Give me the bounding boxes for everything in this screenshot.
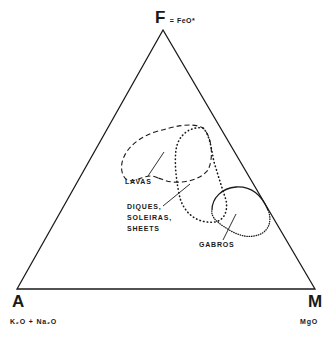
gabros-field-dotted-edge [212,210,270,236]
vertex-a-letter: A [12,292,24,312]
ternary-triangle [17,30,315,289]
dikes-label-line-3: SHEETS [127,223,172,234]
gabros-leader-line [223,214,236,240]
vertex-m-formula: MgO [300,318,318,325]
vertex-f-letter: F [155,8,165,27]
lavas-label: LAVAS [125,178,152,185]
vertex-f-formula: = FeO* [170,17,195,24]
vertex-m-letter: M [308,292,322,312]
gabros-label: GABROS [199,241,235,248]
afm-ternary-diagram [0,0,332,337]
gabros-field-solid-edge [212,187,268,210]
lavas-field-outline [122,125,212,182]
vertex-a-formula: K₂O + Na₂O [10,318,57,325]
dikes-field-outline [175,128,226,222]
lavas-leader-line [148,152,164,176]
vertex-f-group: F = FeO* [155,8,195,28]
dikes-label: DIQUES, SOLEIRAS, SHEETS [127,201,172,234]
dikes-label-line-2: SOLEIRAS, [127,212,172,223]
dikes-label-line-1: DIQUES, [127,201,172,212]
